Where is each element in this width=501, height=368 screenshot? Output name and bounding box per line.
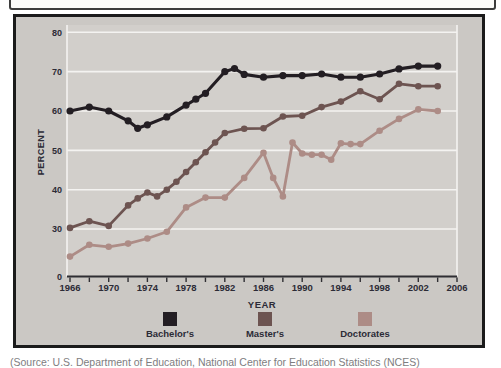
legend-item-doctorates: Doctorates xyxy=(320,312,410,339)
series-point xyxy=(105,244,112,251)
series-point xyxy=(222,194,229,201)
series-point xyxy=(260,149,267,156)
series-point xyxy=(241,175,248,182)
legend-item-masters: Master's xyxy=(220,312,310,339)
y-tick-label-70: 70 xyxy=(52,67,62,77)
series-point xyxy=(338,140,345,147)
x-tick-label-1970: 1970 xyxy=(98,282,119,293)
series-point xyxy=(125,202,132,209)
series-point xyxy=(376,127,383,134)
series-point xyxy=(192,96,199,103)
series-point xyxy=(299,72,306,79)
series-point xyxy=(337,74,344,81)
series-point xyxy=(202,194,209,201)
series-point xyxy=(434,108,441,115)
source-caption: (Source: U.S. Department of Education, N… xyxy=(10,356,498,368)
series-point xyxy=(279,72,286,79)
x-tick-label-1978: 1978 xyxy=(176,282,197,293)
series-point xyxy=(154,193,161,200)
x-tick-label-2002: 2002 xyxy=(408,282,429,293)
x-axis-title: YEAR xyxy=(222,299,302,310)
legend-swatch xyxy=(358,312,372,326)
series-point xyxy=(318,104,325,111)
series-point xyxy=(221,68,228,75)
legend-label: Doctorates xyxy=(320,328,410,339)
series-point xyxy=(357,74,364,81)
x-tick-label-2006: 2006 xyxy=(446,282,467,293)
series-point xyxy=(231,65,238,72)
series-point xyxy=(86,218,93,225)
series-point xyxy=(144,235,151,242)
series-point xyxy=(183,169,190,176)
series-point xyxy=(164,229,171,236)
series-point xyxy=(86,104,93,111)
series-point xyxy=(280,113,287,120)
series-point xyxy=(357,141,364,148)
y-tick-label-40: 40 xyxy=(52,185,62,195)
y-tick-label-60: 60 xyxy=(52,106,62,116)
x-tick-label-1990: 1990 xyxy=(292,282,313,293)
series-point xyxy=(347,141,354,148)
series-point xyxy=(318,151,325,158)
y-tick-label-30: 30 xyxy=(52,224,62,234)
series-point xyxy=(260,74,267,81)
series-point xyxy=(376,96,383,103)
series-point xyxy=(212,139,219,146)
x-tick-label-1994: 1994 xyxy=(330,282,352,293)
legend-label: Master's xyxy=(220,328,310,339)
series-point xyxy=(328,157,335,164)
legend-swatch xyxy=(163,312,177,326)
series-point xyxy=(241,125,248,132)
x-tick-label-1966: 1966 xyxy=(59,282,80,293)
series-point xyxy=(376,70,383,77)
y-tick-label-80: 80 xyxy=(52,28,62,38)
series-point xyxy=(125,117,132,124)
series-point xyxy=(163,113,170,120)
legend-item-bachelors: Bachelor's xyxy=(125,312,215,339)
series-point xyxy=(415,83,422,90)
series-point xyxy=(144,121,151,128)
series-point xyxy=(299,150,306,157)
series-point xyxy=(183,102,190,109)
x-tick-label-1982: 1982 xyxy=(214,282,235,293)
series-point xyxy=(434,83,441,90)
series-point xyxy=(105,223,112,230)
series-point xyxy=(164,186,171,193)
series-point xyxy=(280,193,287,200)
series-point xyxy=(260,125,267,132)
series-point xyxy=(222,130,229,137)
y-axis-title: PERCENT xyxy=(36,112,46,192)
x-tick-label-1986: 1986 xyxy=(253,282,274,293)
series-point xyxy=(396,116,403,123)
series-point xyxy=(144,189,151,196)
series-point xyxy=(183,204,190,211)
series-point xyxy=(202,90,209,97)
x-tick-label-1998: 1998 xyxy=(369,282,390,293)
series-point xyxy=(193,159,200,166)
series-point xyxy=(434,63,441,70)
series-point xyxy=(134,195,141,202)
legend-label: Bachelor's xyxy=(125,328,215,339)
series-point xyxy=(299,112,306,119)
y-tick-label-50: 50 xyxy=(52,146,62,156)
series-point xyxy=(105,107,112,114)
series-point xyxy=(289,139,296,146)
series-point xyxy=(415,106,422,113)
series-point xyxy=(395,65,402,72)
series-point xyxy=(415,63,422,70)
series-point xyxy=(125,240,132,247)
series-point xyxy=(241,71,248,78)
series-point xyxy=(173,179,180,186)
series-point xyxy=(338,98,345,105)
x-tick-label-1974: 1974 xyxy=(137,282,159,293)
series-point xyxy=(270,175,277,182)
series-point xyxy=(86,242,93,249)
legend-swatch xyxy=(258,312,272,326)
series-point xyxy=(67,225,74,232)
series-point xyxy=(134,125,141,132)
series-point xyxy=(309,151,316,158)
series-point xyxy=(66,107,73,114)
series-point xyxy=(357,88,364,95)
series-point xyxy=(202,149,209,156)
